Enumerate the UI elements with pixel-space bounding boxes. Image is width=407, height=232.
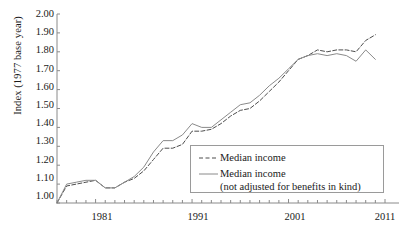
legend-sublabel: (not adjusted for benefits in kind) bbox=[198, 180, 376, 193]
x-tick-label: 1991 bbox=[178, 212, 218, 223]
x-tick-label: 2011 bbox=[365, 212, 405, 223]
legend-label: Median income bbox=[220, 167, 286, 180]
legend-solid-line-icon bbox=[198, 167, 220, 180]
x-tick-label: 2001 bbox=[275, 212, 315, 223]
chart-container: Index (1977 base year) 2.00 1.90 1.80 1.… bbox=[0, 0, 407, 232]
legend-dashed-line-icon bbox=[198, 151, 220, 164]
legend-item-median-income: Median income bbox=[198, 151, 376, 164]
chart-legend: Median income Median income (not adjuste… bbox=[190, 145, 384, 193]
legend-label: Median income bbox=[220, 151, 286, 164]
x-tick-label: 1981 bbox=[82, 212, 122, 223]
plot-area bbox=[0, 0, 407, 232]
legend-item-median-income-unadjusted: Median income bbox=[198, 167, 376, 180]
